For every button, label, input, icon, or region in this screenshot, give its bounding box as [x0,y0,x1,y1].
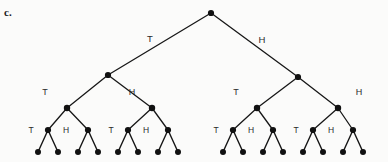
tree-node [45,127,51,133]
tree-node [254,105,260,111]
edge-label-t: T [147,33,153,44]
edge-label-t: T [233,87,239,97]
tree-node [270,127,276,133]
edge-label-h: H [328,125,334,135]
probability-tree-diagram: THTHTHTHTHTHTH [0,0,388,162]
tree-leaf-node [35,149,41,155]
edge-label-h: H [129,87,136,97]
tree-leaf-node [55,149,61,155]
tree-edge [88,130,98,152]
tree-edge [108,13,211,75]
tree-edge [303,130,313,152]
tree-leaf-node [360,149,366,155]
tree-leaf-node [75,149,81,155]
tree-leaf-node [340,149,346,155]
edge-label-h: H [356,87,363,97]
tree-leaf-node [320,149,326,155]
tree-leaf-node [95,149,101,155]
figure-canvas: c. THTHTHTHTHTHTH [0,0,388,162]
tree-nodes [35,10,366,155]
tree-edge [257,108,273,130]
tree-edge [223,130,233,152]
tree-node [125,127,131,133]
edge-label-h: H [143,125,149,135]
tree-edge [233,130,243,152]
tree-leaf-node [155,149,161,155]
tree-leaf-node [300,149,306,155]
edge-label-h: H [259,34,266,45]
tree-node [295,74,301,80]
tree-node [165,127,171,133]
tree-edge [67,75,108,108]
tree-edge [168,130,178,152]
tree-edge [67,108,88,130]
tree-leaf-node [240,149,246,155]
edge-label-h: H [248,125,254,135]
tree-leaf-node [135,149,141,155]
tree-leaf-node [220,149,226,155]
tree-edge [211,13,298,77]
tree-edge [152,108,168,130]
tree-edge [313,108,338,130]
tree-edge [158,130,168,152]
tree-node [350,127,356,133]
tree-leaf-node [260,149,266,155]
edge-label-t: T [28,125,33,135]
tree-edge [118,130,128,152]
tree-edge [298,77,338,108]
tree-edge [353,130,363,152]
edge-label-t: T [213,125,218,135]
tree-edge [128,130,138,152]
edge-label-t: T [42,87,48,97]
tree-leaf-node [115,149,121,155]
tree-leaf-node [175,149,181,155]
tree-edge [273,130,283,152]
edge-label-t: T [108,125,113,135]
tree-edge [78,130,88,152]
edge-label-t: T [293,125,298,135]
tree-node [64,105,70,111]
tree-edge [257,77,298,108]
tree-edge [48,130,58,152]
tree-edge [313,130,323,152]
tree-edge [343,130,353,152]
tree-root-node [208,10,214,16]
edge-label-h: H [63,125,69,135]
tree-edge [338,108,353,130]
tree-node [230,127,236,133]
tree-edge [263,130,273,152]
tree-leaf-node [280,149,286,155]
tree-node [310,127,316,133]
tree-node [105,72,111,78]
tree-edge [38,130,48,152]
tree-node [85,127,91,133]
tree-node [149,105,155,111]
tree-node [335,105,341,111]
